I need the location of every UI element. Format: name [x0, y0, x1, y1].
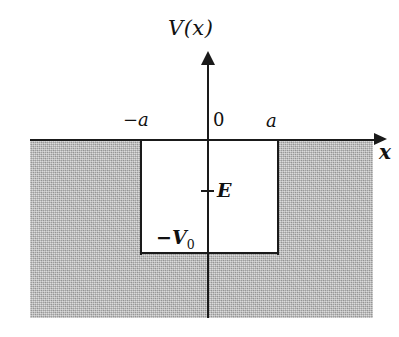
left-boundary-label: −a: [123, 111, 149, 129]
well-left-wall: [140, 140, 142, 255]
well-depth-label: −V0: [156, 228, 195, 251]
well-depth-symbol: V: [172, 226, 187, 248]
well-right-wall: [277, 140, 279, 255]
x-axis-label: x: [379, 142, 391, 162]
energy-level-tick: [201, 190, 214, 192]
right-boundary-label: a: [266, 112, 277, 130]
well-floor: [140, 252, 279, 254]
origin-label: 0: [213, 111, 224, 129]
well-depth-minus-sign: −: [156, 226, 172, 248]
v-axis-line: [207, 60, 209, 318]
well-depth-subscript: 0: [187, 237, 195, 252]
potential-well-figure: V(x) −a 0 a x E −V0: [0, 0, 399, 337]
x-axis-line: [30, 139, 382, 141]
v-axis-title: V(x): [168, 18, 213, 39]
v-axis-arrow-icon: [201, 51, 215, 65]
energy-level-label: E: [217, 181, 231, 200]
